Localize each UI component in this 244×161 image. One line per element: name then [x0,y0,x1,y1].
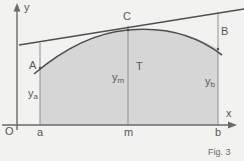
ordinate-ym-subscript: m [118,76,125,85]
ordinate-yb-subscript: b [211,80,215,89]
tick-label-m: m [124,127,133,138]
figure-container: y x O a m b A C B T ya ym yb Fig. 3 [0,0,244,161]
figure-caption: Fig. 3 [208,147,231,158]
ordinate-label-yb: yb [205,76,215,90]
tick-label-b: b [215,127,221,138]
x-axis-label: x [226,108,232,119]
region-label-t: T [136,61,143,72]
point-marker-b [217,48,219,50]
point-marker-a [39,67,41,69]
ordinate-label-ya: ya [28,88,38,102]
tick-label-a: a [37,127,43,138]
point-label-c: C [123,11,131,22]
point-label-b: B [221,26,228,37]
ordinate-ya-subscript: a [34,92,38,101]
point-marker-c [127,29,129,31]
y-axis-label: y [24,2,30,13]
origin-label: O [5,126,14,137]
y-axis-arrow [14,3,21,12]
point-label-a: A [29,60,36,71]
ordinate-label-ym: ym [112,72,124,86]
shaded-region-t [40,29,218,125]
x-axis-arrow [228,121,237,128]
